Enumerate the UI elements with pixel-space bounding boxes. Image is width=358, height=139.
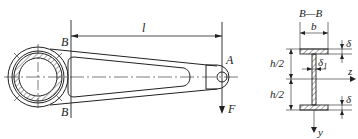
force-arrowhead [219, 106, 225, 114]
delta-top-arrow-up [340, 54, 344, 59]
section-mark-bottom: B [61, 105, 69, 119]
y-axis-label: y [317, 126, 323, 138]
web [312, 54, 316, 105]
b-arrow-right [323, 31, 328, 35]
length-label: l [142, 21, 146, 35]
point-a-label: A [225, 53, 234, 67]
section-title: B—B [299, 7, 323, 19]
delta1-subscript: 1 [323, 62, 327, 71]
b-arrow-left [300, 31, 305, 35]
h-half-bottom-label: h/2 [270, 88, 285, 100]
h-arrow-bottom [289, 105, 293, 110]
h-arrow-mid-up [289, 74, 293, 79]
section-mark-top: B [61, 35, 69, 49]
bottom-flange [300, 105, 328, 110]
h-half-top-label: h/2 [270, 57, 285, 69]
delta1-arrow-left [307, 67, 312, 71]
length-arrow-right [215, 34, 222, 38]
drawing-canvas: l B B A F [0, 0, 358, 139]
h-arrow-top [289, 49, 293, 54]
delta-top-label: δ [346, 37, 352, 49]
delta-top-arrow-down [340, 44, 344, 49]
delta-bottom-arrow-up [340, 110, 344, 115]
delta-bottom-arrow-down [340, 100, 344, 105]
y-axis-arrowhead [311, 127, 317, 133]
force-label: F [227, 102, 236, 116]
h-arrow-mid-down [289, 79, 293, 84]
delta-bottom-label: δ [346, 93, 352, 105]
length-arrow-left [71, 34, 78, 38]
mechanical-drawing: l B B A F [0, 0, 358, 139]
top-flange [300, 49, 328, 54]
flange-width-label: b [311, 20, 317, 32]
lever-view [4, 20, 240, 118]
z-axis-label: z [347, 65, 353, 77]
